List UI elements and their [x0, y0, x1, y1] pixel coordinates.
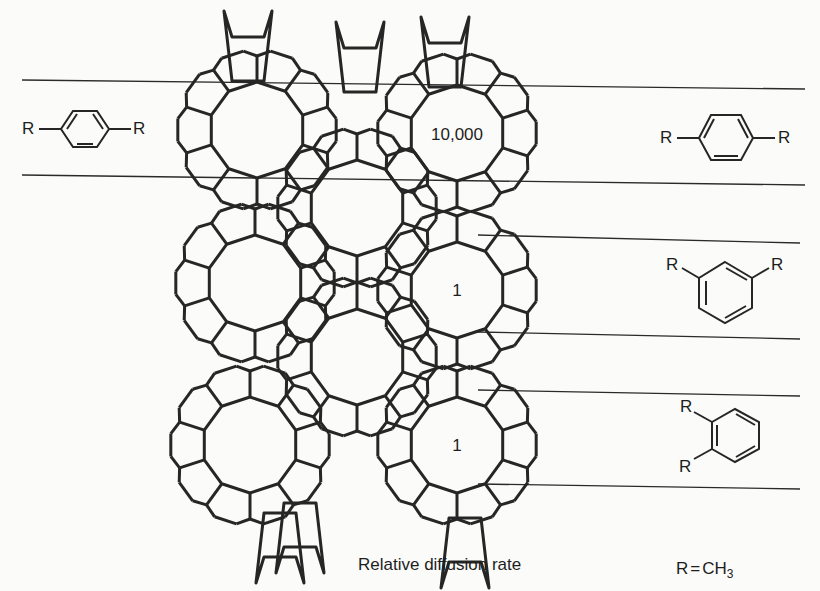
para-xylene-left-structure [39, 111, 131, 147]
framework-lattice [171, 11, 536, 588]
r-label-meta-1: R [666, 256, 678, 273]
substituent-definition: R=CH3 [676, 559, 733, 581]
zeolite-diffusion-diagram: R R R R R R R R 10,000 1 1 Relative diff… [0, 0, 820, 591]
r-label-para-left-1: R [22, 120, 34, 137]
molecule-drawings [39, 111, 775, 462]
guide-line-para-top [22, 80, 805, 89]
guide-line-meta-top [478, 235, 800, 243]
rate-label-ortho: 1 [452, 437, 461, 454]
figure-caption: Relative diffusion rate [358, 555, 521, 575]
r-label-ortho-2: R [679, 458, 691, 475]
guide-line-ortho-top [478, 390, 800, 396]
formula-r: R [676, 559, 688, 578]
formula-equals: = [690, 559, 700, 578]
ortho-xylene-structure [694, 409, 759, 462]
meta-xylene-structure [682, 262, 769, 323]
r-label-meta-2: R [771, 256, 783, 273]
rate-label-meta: 1 [452, 282, 461, 299]
r-label-para-right-1: R [660, 129, 672, 146]
zeolite-framework [0, 0, 820, 591]
r-label-para-right-2: R [778, 129, 790, 146]
rate-label-para: 10,000 [431, 126, 483, 143]
para-xylene-right-structure [677, 115, 775, 160]
r-label-ortho-1: R [680, 398, 692, 415]
guide-line-meta-bottom [478, 332, 800, 339]
guide-line-para-bottom [22, 175, 805, 185]
formula-subscript: 3 [727, 567, 734, 581]
formula-ch: CH [702, 559, 727, 578]
r-label-para-left-2: R [133, 120, 145, 137]
